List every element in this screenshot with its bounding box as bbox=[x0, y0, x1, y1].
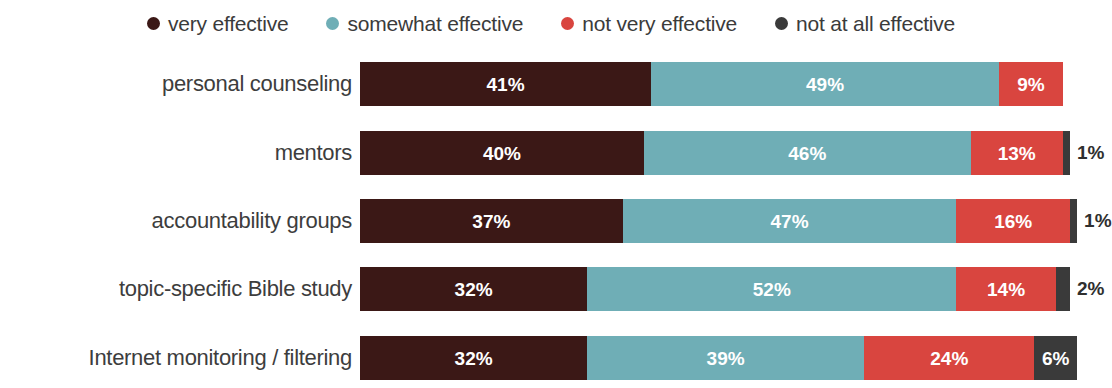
row-category-label: personal counseling bbox=[0, 72, 352, 95]
legend-dot-icon-somewhat-effective bbox=[326, 17, 339, 30]
row-bar-area: 40%46%13%1% bbox=[360, 131, 1102, 175]
bar-segment-not-at-all-effective[interactable] bbox=[1056, 267, 1070, 311]
row-category-label: topic-specific Bible study bbox=[0, 277, 352, 300]
row-category-label: accountability groups bbox=[0, 209, 352, 232]
bar-segment-very-effective[interactable]: 32% bbox=[360, 336, 587, 380]
bar-segment-somewhat-effective[interactable]: 46% bbox=[644, 131, 971, 175]
bar-segment-not-very-effective[interactable]: 14% bbox=[956, 267, 1055, 311]
segment-value-label: 46% bbox=[788, 144, 826, 163]
stacked-bar: 37%47%16% bbox=[360, 199, 1077, 243]
bar-segment-not-at-all-effective[interactable] bbox=[1070, 199, 1077, 243]
bar-segment-somewhat-effective[interactable]: 39% bbox=[587, 336, 864, 380]
bar-segment-somewhat-effective[interactable]: 49% bbox=[651, 62, 999, 106]
bar-segment-not-at-all-effective[interactable] bbox=[1063, 131, 1070, 175]
bar-segment-very-effective[interactable]: 32% bbox=[360, 267, 587, 311]
legend-label-somewhat-effective: somewhat effective bbox=[347, 13, 523, 34]
bar-segment-not-at-all-effective[interactable]: 6% bbox=[1034, 336, 1077, 380]
chart-rows: personal counseling41%49%9%mentors40%46%… bbox=[0, 44, 1102, 388]
row-category-label: Internet monitoring / filtering bbox=[0, 346, 352, 369]
stacked-bar: 41%49%9% bbox=[360, 62, 1063, 106]
stacked-bar: 40%46%13% bbox=[360, 131, 1070, 175]
bar-segment-not-very-effective[interactable]: 13% bbox=[971, 131, 1063, 175]
segment-value-label: 24% bbox=[930, 349, 968, 368]
row-bar-area: 41%49%9% bbox=[360, 62, 1102, 106]
segment-value-label: 52% bbox=[753, 280, 791, 299]
bar-segment-very-effective[interactable]: 41% bbox=[360, 62, 651, 106]
bar-segment-somewhat-effective[interactable]: 52% bbox=[587, 267, 956, 311]
legend-item-not-at-all-effective[interactable]: not at all effective bbox=[775, 13, 955, 34]
legend-label-very-effective: very effective bbox=[168, 13, 289, 34]
segment-value-label: 13% bbox=[998, 144, 1036, 163]
legend-dot-icon-not-very-effective bbox=[561, 17, 574, 30]
segment-value-label: 40% bbox=[483, 144, 521, 163]
legend-item-very-effective[interactable]: very effective bbox=[147, 13, 289, 34]
chart-row: Internet monitoring / filtering32%39%24%… bbox=[0, 336, 1102, 380]
bar-segment-somewhat-effective[interactable]: 47% bbox=[623, 199, 957, 243]
segment-value-label: 37% bbox=[472, 212, 510, 231]
segment-value-label-outside: 1% bbox=[1077, 199, 1111, 243]
segment-value-label: 32% bbox=[455, 280, 493, 299]
segment-value-label: 41% bbox=[487, 75, 525, 94]
segment-value-label: 47% bbox=[771, 212, 809, 231]
legend-item-somewhat-effective[interactable]: somewhat effective bbox=[326, 13, 523, 34]
chart-row: accountability groups37%47%16%1% bbox=[0, 199, 1102, 243]
chart-row: mentors40%46%13%1% bbox=[0, 131, 1102, 175]
segment-value-label-outside: 2% bbox=[1070, 267, 1104, 311]
legend-label-not-at-all-effective: not at all effective bbox=[796, 13, 955, 34]
bar-segment-not-very-effective[interactable]: 16% bbox=[956, 199, 1070, 243]
legend-item-not-very-effective[interactable]: not very effective bbox=[561, 13, 737, 34]
segment-value-label-outside: 1% bbox=[1070, 131, 1104, 175]
stacked-bar: 32%52%14% bbox=[360, 267, 1070, 311]
legend-dot-icon-very-effective bbox=[147, 17, 160, 30]
chart-legend: very effective somewhat effective not ve… bbox=[0, 0, 1102, 44]
stacked-bar: 32%39%24%6% bbox=[360, 336, 1077, 380]
segment-value-label: 9% bbox=[1017, 75, 1044, 94]
segment-value-label: 39% bbox=[707, 349, 745, 368]
segment-value-label: 14% bbox=[987, 280, 1025, 299]
legend-label-not-very-effective: not very effective bbox=[582, 13, 737, 34]
segment-value-label: 6% bbox=[1042, 349, 1069, 368]
chart-row: topic-specific Bible study32%52%14%2% bbox=[0, 267, 1102, 311]
chart-row: personal counseling41%49%9% bbox=[0, 62, 1102, 106]
row-category-label: mentors bbox=[0, 141, 352, 164]
bar-segment-not-very-effective[interactable]: 24% bbox=[864, 336, 1034, 380]
row-bar-area: 32%52%14%2% bbox=[360, 267, 1102, 311]
segment-value-label: 49% bbox=[806, 75, 844, 94]
row-bar-area: 37%47%16%1% bbox=[360, 199, 1102, 243]
bar-segment-not-very-effective[interactable]: 9% bbox=[999, 62, 1063, 106]
bar-segment-very-effective[interactable]: 37% bbox=[360, 199, 623, 243]
segment-value-label: 16% bbox=[994, 212, 1032, 231]
row-bar-area: 32%39%24%6% bbox=[360, 336, 1102, 380]
segment-value-label: 32% bbox=[455, 349, 493, 368]
legend-dot-icon-not-at-all-effective bbox=[775, 17, 788, 30]
bar-segment-very-effective[interactable]: 40% bbox=[360, 131, 644, 175]
